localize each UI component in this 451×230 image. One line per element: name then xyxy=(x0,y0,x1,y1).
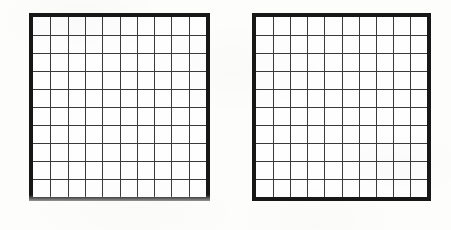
grid-row-line xyxy=(33,179,206,180)
grid-row-line xyxy=(256,53,427,54)
grid-row-line xyxy=(33,161,206,162)
grid-row-line xyxy=(256,89,427,90)
grid-row-line xyxy=(256,35,427,36)
grid-row-line xyxy=(256,161,427,162)
grid-row-line xyxy=(33,107,206,108)
page-canvas xyxy=(0,0,451,230)
grid-interior-lines-right xyxy=(256,17,427,197)
grid-row-line xyxy=(256,143,427,144)
grid-row-line xyxy=(33,143,206,144)
grid-row-line xyxy=(33,35,206,36)
grid-row-line xyxy=(33,125,206,126)
grid-row-line xyxy=(256,179,427,180)
grid-figure-right xyxy=(252,13,431,201)
grid-row-line xyxy=(256,125,427,126)
grid-figure-left xyxy=(29,13,210,201)
grid-row-line xyxy=(33,89,206,90)
grid-row-line xyxy=(33,53,206,54)
grid-row-line xyxy=(33,71,206,72)
grid-row-line xyxy=(256,71,427,72)
grid-interior-lines-left xyxy=(33,17,206,197)
grid-row-line xyxy=(256,107,427,108)
